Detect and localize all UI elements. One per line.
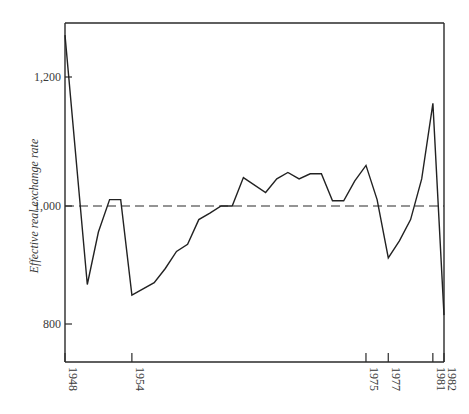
- plot-frame: [65, 23, 444, 362]
- exchange-rate-line: [65, 35, 444, 315]
- exchange-rate-chart: 1,2001,000800 194819541975197719811982 E…: [0, 0, 469, 414]
- y-axis-title: Effective real exchange rate: [27, 138, 41, 274]
- x-tick-label: 1954: [133, 367, 147, 391]
- x-tick-label: 1977: [389, 367, 403, 391]
- x-tick-label: 1948: [66, 367, 80, 391]
- y-tick-label: 800: [43, 317, 61, 331]
- x-tick-label: 1975: [367, 367, 381, 391]
- x-axis-ticks: 194819541975197719811982: [65, 353, 459, 391]
- y-tick-label: 1,200: [34, 70, 61, 84]
- x-tick-label: 1982: [445, 367, 459, 391]
